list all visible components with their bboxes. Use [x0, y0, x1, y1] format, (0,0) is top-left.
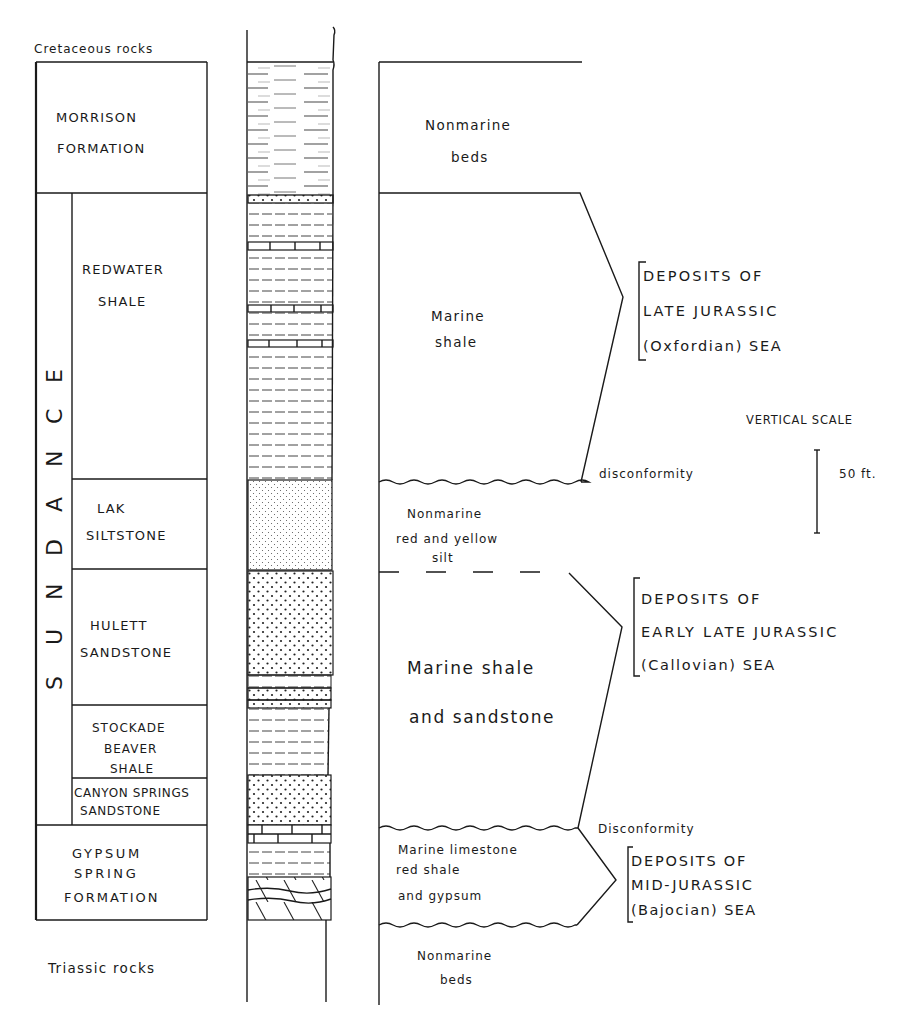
svg-text:and sandstone: and sandstone	[409, 707, 555, 727]
env-marine-limestone: Marine limestone red shale and gypsum	[396, 843, 518, 903]
disconformity-line-lower	[379, 826, 578, 830]
svg-text:REDWATER: REDWATER	[82, 262, 164, 277]
formation-hulett: HULETT SANDSTONE	[80, 618, 172, 660]
svg-text:beds: beds	[440, 973, 473, 987]
svg-text:SHALE: SHALE	[98, 294, 146, 309]
formation-morrison: MORRISON FORMATION	[56, 110, 145, 156]
formation-table: Cretaceous rocks MORRISON FORMATION REDW…	[34, 42, 207, 976]
svg-text:EARLY LATE JURASSIC: EARLY LATE JURASSIC	[641, 624, 839, 640]
svg-text:U: U	[42, 629, 67, 645]
vertical-scale-value: 50 ft.	[839, 467, 877, 481]
svg-text:SANDSTONE: SANDSTONE	[80, 804, 161, 818]
formation-redwater: REDWATER SHALE	[82, 262, 164, 309]
unit-sandstone	[248, 775, 331, 825]
svg-text:Nonmarine: Nonmarine	[417, 949, 492, 963]
svg-text:C: C	[42, 409, 67, 424]
svg-text:Nonmarine: Nonmarine	[407, 507, 482, 521]
svg-text:and gypsum: and gypsum	[398, 889, 482, 903]
unit-shale	[248, 675, 331, 688]
unit-shale	[248, 843, 330, 877]
svg-text:STOCKADE: STOCKADE	[92, 721, 165, 735]
unit-limestone	[248, 825, 331, 843]
env-marine-shale: Marine shale	[431, 308, 485, 350]
svg-text:E: E	[42, 369, 67, 383]
svg-text:MID-JURASSIC: MID-JURASSIC	[631, 877, 754, 893]
svg-text:DEPOSITS OF: DEPOSITS OF	[643, 268, 764, 284]
svg-text:BEAVER: BEAVER	[104, 742, 157, 756]
svg-text:Marine: Marine	[431, 308, 485, 324]
svg-text:DEPOSITS OF: DEPOSITS OF	[641, 591, 762, 607]
svg-text:MORRISON: MORRISON	[56, 110, 137, 125]
sea-bajocian: DEPOSITS OF MID-JURASSIC (Bajocian) SEA	[628, 847, 757, 922]
svg-text:red shale: red shale	[396, 863, 460, 877]
svg-text:Marine shale: Marine shale	[407, 658, 535, 678]
unit-shale	[248, 347, 332, 480]
unit-nonmarine-mudstone	[248, 63, 332, 195]
svg-text:LATE JURASSIC: LATE JURASSIC	[643, 303, 779, 319]
svg-text:A: A	[42, 497, 67, 512]
svg-text:SANDSTONE: SANDSTONE	[80, 645, 172, 660]
unit-limestone	[248, 340, 333, 347]
bracket-icon	[634, 578, 640, 676]
svg-text:SILTSTONE: SILTSTONE	[86, 528, 167, 543]
disconformity-label-upper: disconformity	[599, 467, 694, 481]
lithologic-column	[247, 27, 335, 1002]
sundance-group-label: S U N D A N C E	[42, 369, 67, 690]
svg-text:(Bajocian) SEA: (Bajocian) SEA	[631, 902, 757, 918]
unit-limestone	[248, 242, 333, 250]
svg-text:beds: beds	[451, 149, 489, 165]
unit-sandstone	[248, 571, 333, 675]
svg-text:D: D	[42, 539, 67, 556]
svg-text:Marine limestone: Marine limestone	[398, 843, 518, 857]
unit-shale	[248, 708, 328, 775]
svg-text:Nonmarine: Nonmarine	[425, 117, 511, 133]
svg-text:LAK: LAK	[97, 501, 126, 516]
env-marine-shale-sandstone: Marine shale and sandstone	[407, 658, 555, 727]
unit-shale	[248, 312, 332, 340]
svg-text:silt: silt	[432, 551, 454, 565]
svg-text:(Oxfordian) SEA: (Oxfordian) SEA	[643, 338, 782, 354]
disconformity-line-upper	[379, 480, 589, 484]
formation-gypsum-spring: GYPSUM SPRING FORMATION	[64, 846, 160, 905]
svg-text:DEPOSITS OF: DEPOSITS OF	[631, 853, 747, 869]
svg-text:CANYON SPRINGS: CANYON SPRINGS	[74, 786, 190, 800]
unit-sandstone	[248, 688, 331, 700]
unit-limestone	[248, 305, 333, 312]
svg-text:GYPSUM: GYPSUM	[72, 846, 142, 861]
unit-sandstone	[248, 700, 331, 708]
cretaceous-rocks-label: Cretaceous rocks	[34, 42, 153, 56]
stratigraphic-section-diagram: Cretaceous rocks MORRISON FORMATION REDW…	[0, 0, 912, 1033]
svg-text:S: S	[42, 676, 67, 690]
unit-shale	[248, 250, 332, 305]
sea-callovian: DEPOSITS OF EARLY LATE JURASSIC (Callovi…	[634, 578, 839, 676]
svg-text:red and yellow: red and yellow	[396, 532, 498, 546]
svg-text:FORMATION: FORMATION	[57, 141, 145, 156]
unit-siltstone	[248, 480, 332, 570]
svg-text:shale: shale	[435, 334, 477, 350]
unit-gypsum	[248, 877, 331, 920]
unit-conglomerate	[248, 195, 333, 203]
svg-text:SHALE: SHALE	[110, 762, 154, 776]
svg-text:(Callovian) SEA: (Callovian) SEA	[641, 657, 776, 673]
formation-canyon-springs: CANYON SPRINGS SANDSTONE	[74, 786, 190, 818]
svg-text:FORMATION: FORMATION	[64, 890, 160, 905]
formation-lak: LAK SILTSTONE	[86, 501, 167, 543]
formation-stockade-beaver: STOCKADE BEAVER SHALE	[92, 721, 165, 776]
svg-text:N: N	[42, 584, 67, 600]
vertical-scale-title: VERTICAL SCALE	[746, 413, 853, 427]
svg-text:SPRING: SPRING	[74, 866, 138, 881]
env-nonmarine-beds-upper: Nonmarine beds	[425, 117, 511, 165]
svg-text:HULETT: HULETT	[90, 618, 148, 633]
triassic-rocks-label: Triassic rocks	[47, 960, 155, 976]
vertical-scale: VERTICAL SCALE 50 ft.	[746, 413, 877, 533]
disconformity-label-lower: Disconformity	[598, 822, 695, 836]
unit-shale	[248, 203, 332, 242]
env-nonmarine-beds-lower: Nonmarine beds	[417, 949, 492, 987]
env-nonmarine-silt: Nonmarine red and yellow silt	[396, 507, 498, 565]
svg-text:N: N	[42, 451, 67, 467]
unconformity-line-base	[379, 923, 577, 927]
sea-oxfordian: DEPOSITS OF LATE JURASSIC (Oxfordian) SE…	[639, 262, 782, 360]
